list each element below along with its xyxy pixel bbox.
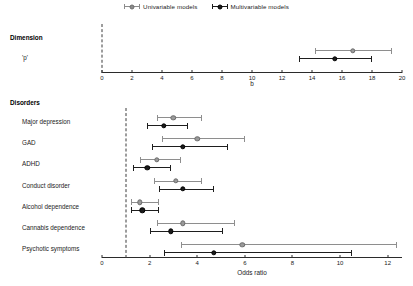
x-tick-label-1-3: 6: [243, 260, 246, 266]
x-tick-1-1: [149, 255, 150, 258]
point-estimate-marker: [180, 144, 185, 149]
legend-item-multivariable: Multivariable models: [212, 3, 289, 10]
x-tick-label-1-2: 4: [196, 260, 199, 266]
dimension-plot-area: [102, 28, 402, 73]
interval-bar: [131, 202, 160, 203]
interval-univariable: [315, 50, 392, 51]
point-estimate-marker: [180, 186, 185, 191]
interval-bar: [152, 146, 228, 147]
interval-univariable: [157, 117, 202, 118]
interval-bar: [131, 210, 160, 211]
interval-bar: [157, 117, 202, 118]
x-tick-label-1-4: 8: [291, 260, 294, 266]
interval-univariable: [162, 138, 245, 139]
x-tick-label-0-10: 20: [399, 75, 406, 81]
point-estimate-marker: [195, 136, 200, 141]
row-label-adhd: ADHD: [22, 160, 40, 167]
x-tick-label-1-6: 12: [384, 260, 391, 266]
interval-multivariable: [152, 146, 228, 147]
x-tick-label-0-3: 6: [190, 75, 193, 81]
row-label-psychotic-symptoms: Psychotic symptoms: [22, 245, 79, 252]
point-estimate-marker: [140, 207, 145, 212]
interval-bar: [181, 244, 398, 245]
x-tick-0-8: [342, 70, 343, 73]
x-tick-label-1-0: 0: [100, 260, 103, 266]
dimension-panel: Dimension 'p' b 02468101214161820: [0, 26, 413, 88]
interval-cap-low: [152, 144, 153, 150]
interval-cap-low: [157, 220, 158, 226]
interval-cap-high: [187, 123, 188, 129]
interval-cap-high: [180, 157, 181, 163]
interval-multivariable: [159, 189, 214, 190]
interval-multivariable: [131, 210, 160, 211]
x-tick-0-9: [372, 70, 373, 73]
interval-cap-low: [164, 250, 165, 256]
point-estimate-marker: [137, 199, 142, 204]
interval-cap-high: [234, 220, 235, 226]
interval-cap-high: [201, 115, 202, 121]
x-tick-label-0-1: 2: [130, 75, 133, 81]
x-tick-0-7: [312, 70, 313, 73]
interval-cap-high: [158, 199, 159, 205]
interval-cap-low: [133, 165, 134, 171]
interval-cap-high: [227, 144, 228, 150]
interval-cap-high: [213, 186, 214, 192]
interval-univariable: [140, 159, 180, 160]
point-estimate-marker: [240, 242, 245, 247]
x-tick-label-1-5: 10: [337, 260, 344, 266]
interval-multivariable: [164, 252, 352, 253]
legend-marker-multivariable-icon: [212, 6, 228, 7]
interval-cap-high: [222, 228, 223, 234]
reference-line-disorders-panel: [125, 108, 126, 258]
interval-bar: [154, 181, 202, 182]
interval-cap-low: [315, 48, 316, 54]
x-axis-title-disorders: Odds ratio: [237, 269, 266, 276]
point-estimate-marker: [180, 221, 185, 226]
interval-cap-high: [391, 48, 392, 54]
row-label-alcohol-dependence: Alcohol dependence: [22, 202, 79, 209]
point-estimate-marker: [332, 56, 337, 61]
x-tick-0-3: [192, 70, 193, 73]
interval-bar: [150, 231, 224, 232]
x-tick-1-4: [292, 255, 293, 258]
interval-univariable: [131, 202, 160, 203]
x-tick-0-4: [222, 70, 223, 73]
interval-cap-low: [154, 178, 155, 184]
interval-cap-low: [181, 242, 182, 248]
forest-plot-figure: Univariable models Multivariable models …: [0, 0, 413, 286]
x-tick-0-1: [132, 70, 133, 73]
x-tick-label-0-0: 0: [100, 75, 103, 81]
interval-cap-low: [159, 186, 160, 192]
interval-bar: [157, 223, 236, 224]
interval-multivariable: [299, 58, 373, 59]
legend-label-multivariable: Multivariable models: [231, 3, 289, 10]
x-tick-1-6: [387, 255, 388, 258]
interval-cap-low: [150, 228, 151, 234]
reference-line-dimension-panel: [102, 24, 103, 73]
x-tick-label-1-1: 2: [148, 260, 151, 266]
point-estimate-marker: [350, 48, 355, 53]
interval-cap-low: [162, 136, 163, 142]
interval-cap-high: [201, 178, 202, 184]
interval-bar: [162, 138, 245, 139]
x-tick-0-5: [252, 70, 253, 73]
group-label-disorders: Disorders: [10, 99, 40, 106]
interval-multivariable: [147, 125, 187, 126]
point-estimate-marker: [168, 229, 173, 234]
interval-cap-high: [396, 242, 397, 248]
interval-bar: [164, 252, 352, 253]
row-label-major-depression: Major depression: [22, 118, 70, 125]
x-tick-label-0-8: 16: [339, 75, 346, 81]
interval-cap-low: [147, 123, 148, 129]
point-estimate-marker: [211, 250, 216, 255]
interval-univariable: [181, 244, 398, 245]
group-label-dimension: Dimension: [10, 34, 43, 41]
interval-cap-high: [158, 207, 159, 213]
interval-cap-low: [140, 157, 141, 163]
point-estimate-marker: [145, 165, 150, 170]
row-label-dimension-0: 'p': [22, 54, 28, 61]
x-tick-label-0-6: 12: [279, 75, 286, 81]
x-tick-label-0-9: 18: [369, 75, 376, 81]
row-label-conduct-disorder: Conduct disorder: [22, 181, 70, 188]
interval-bar: [159, 189, 214, 190]
